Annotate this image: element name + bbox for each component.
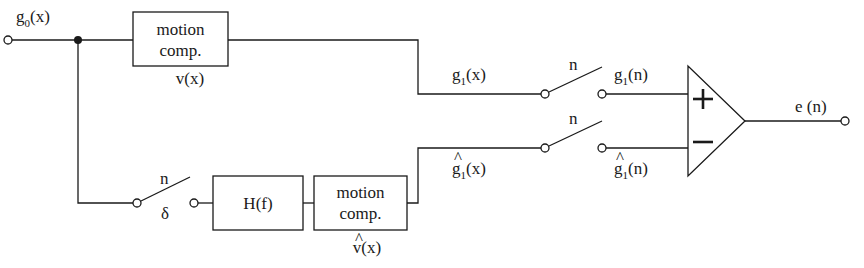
- top-signal-label: g1(x): [452, 65, 486, 87]
- bottom-switch-right-terminal: [190, 199, 198, 207]
- output-terminal: [841, 117, 849, 125]
- bottom-sample-switch-right-terminal: [598, 144, 606, 152]
- bottom-sample-switch-control-label: n: [569, 109, 578, 128]
- motion-comp-top-line2: comp.: [159, 41, 201, 60]
- delta-label: δ: [161, 204, 169, 223]
- input-label: g0(x): [16, 7, 50, 29]
- top-signal-wire: [228, 40, 541, 94]
- bottom-sample-switch-left-terminal: [541, 144, 549, 152]
- output-label: e (n): [795, 97, 827, 116]
- input-terminal: [4, 36, 12, 44]
- bottom-signal-hat: ^: [454, 148, 462, 167]
- motion-comp-bottom-line1: motion: [336, 183, 385, 202]
- bottom-switch-left-terminal: [133, 199, 141, 207]
- filter-label: H(f): [243, 194, 272, 213]
- motion-comp-bottom-line2: comp.: [339, 204, 381, 223]
- top-switch-left-terminal: [541, 90, 549, 98]
- top-sampled-label: g1(n): [614, 65, 648, 87]
- motion-comp-top-line1: motion: [156, 20, 205, 39]
- bottom-switch-control-label: n: [160, 169, 169, 188]
- top-switch-control-label: n: [569, 55, 578, 74]
- comparator-triangle: [688, 66, 745, 176]
- motion-vector-label: v(x): [176, 69, 204, 88]
- estimated-motion-vector-hat: ^: [355, 229, 363, 248]
- bottom-sampled-hat: ^: [616, 148, 624, 167]
- top-switch-right-terminal: [598, 90, 606, 98]
- motion-compensation-block-diagram: g0(x) motion comp. v(x) g1(x) n g1(n) n …: [0, 0, 864, 268]
- bottom-branch-wire: [78, 40, 133, 203]
